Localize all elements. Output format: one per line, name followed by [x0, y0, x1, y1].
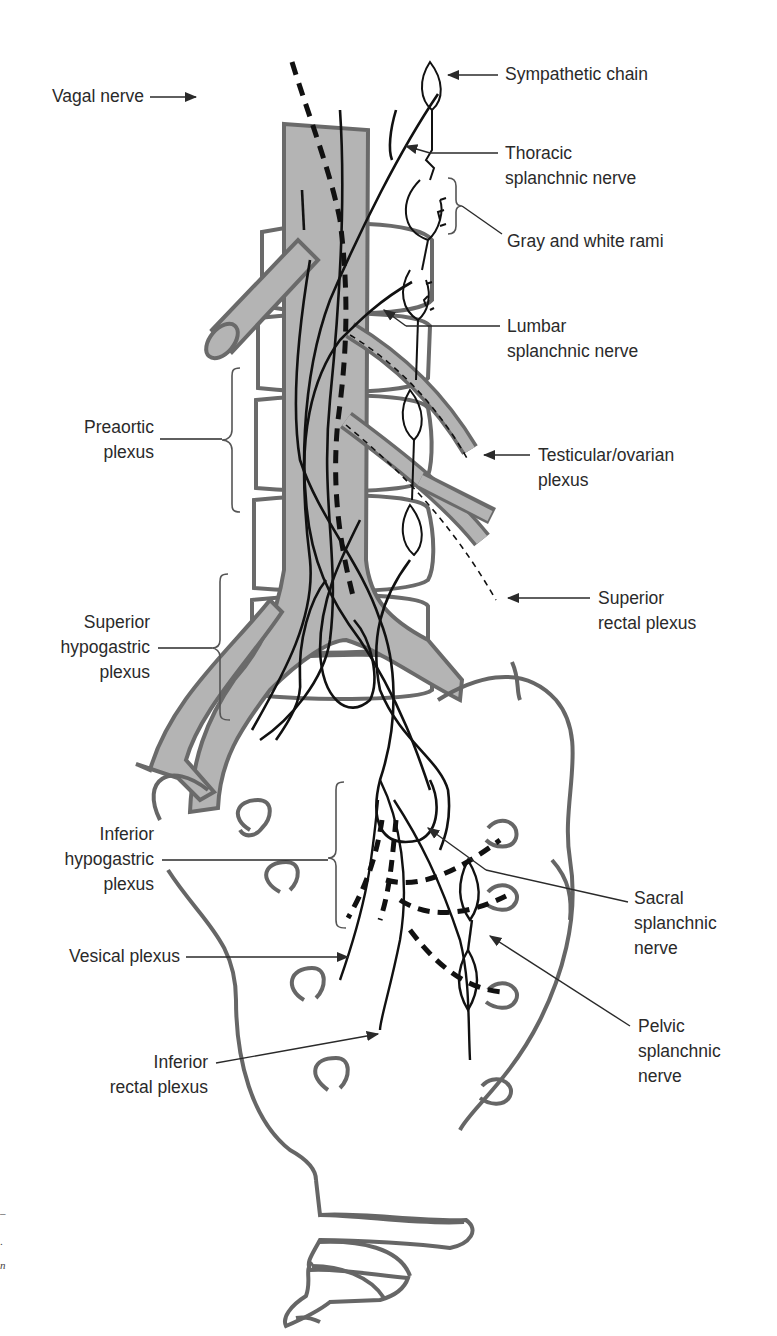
label-inferior-hypogastric-plexus: Inferior hypogastric plexus: [20, 822, 154, 897]
pelvic-nerves: [340, 780, 479, 1060]
label-line: plexus: [40, 440, 154, 465]
label-line: Gray and white rami: [507, 229, 664, 254]
label-line: Sympathetic chain: [505, 62, 648, 87]
label-line: plexus: [20, 872, 154, 897]
label-pelvic-splanchnic-nerve: Pelvic splanchnic nerve: [638, 1014, 721, 1089]
label-line: Lumbar: [507, 314, 638, 339]
label-line: Vagal nerve: [40, 84, 144, 109]
label-line: rectal plexus: [598, 611, 696, 636]
label-line: Superior: [598, 586, 696, 611]
label-superior-hypogastric-plexus: Superior hypogastric plexus: [20, 610, 150, 685]
label-line: hypogastric: [20, 847, 154, 872]
label-line: splanchnic: [638, 1039, 721, 1064]
label-line: Testicular/ovarian: [538, 443, 674, 468]
label-line: Superior: [20, 610, 150, 635]
margin-mark: n: [0, 1258, 6, 1272]
label-thoracic-splanchnic-nerve: Thoracic splanchnic nerve: [505, 141, 636, 191]
label-line: plexus: [20, 660, 150, 685]
label-gray-white-rami: Gray and white rami: [507, 229, 664, 254]
label-line: Pelvic: [638, 1014, 721, 1039]
label-line: splanchnic nerve: [507, 339, 638, 364]
label-sympathetic-chain: Sympathetic chain: [505, 62, 648, 87]
label-line: Thoracic: [505, 141, 636, 166]
label-line: plexus: [538, 468, 674, 493]
label-superior-rectal-plexus: Superior rectal plexus: [598, 586, 696, 636]
label-vagal-nerve: Vagal nerve: [40, 84, 144, 109]
label-testicular-ovarian-plexus: Testicular/ovarian plexus: [538, 443, 674, 493]
label-lumbar-splanchnic-nerve: Lumbar splanchnic nerve: [507, 314, 638, 364]
label-line: Inferior: [60, 1050, 208, 1075]
label-line: nerve: [634, 936, 717, 961]
label-line: rectal plexus: [60, 1075, 208, 1100]
label-line: Sacral: [634, 886, 717, 911]
label-sacral-splanchnic-nerve: Sacral splanchnic nerve: [634, 886, 717, 961]
margin-mark: .: [0, 1234, 3, 1248]
label-line: Vesical plexus: [20, 944, 180, 969]
label-vesical-plexus: Vesical plexus: [20, 944, 180, 969]
label-line: nerve: [638, 1064, 721, 1089]
label-line: splanchnic: [634, 911, 717, 936]
label-line: hypogastric: [20, 635, 150, 660]
label-preaortic-plexus: Preaortic plexus: [40, 415, 154, 465]
label-line: Inferior: [20, 822, 154, 847]
margin-mark: –: [0, 1206, 6, 1220]
label-line: Preaortic: [40, 415, 154, 440]
label-line: splanchnic nerve: [505, 166, 636, 191]
label-inferior-rectal-plexus: Inferior rectal plexus: [60, 1050, 208, 1100]
